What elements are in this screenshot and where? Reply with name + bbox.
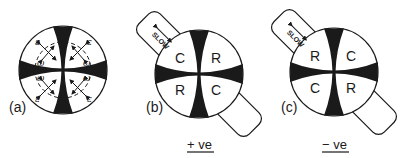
quadrant-bottom-right: C [211, 82, 221, 98]
panel-label-a: (a) [9, 99, 26, 115]
quadrant-bottom-left: C [310, 80, 320, 96]
quadrant-bottom-left: R [175, 82, 185, 98]
conoscopic-figure: ε ε ε ε ω ω ω ω (a) SLOW C R R C (b) + v… [0, 0, 410, 158]
quadrant-top-right: R [211, 50, 221, 66]
panel-c: SLOW R C C R (c) − ve [268, 6, 400, 152]
omega-label: ω [37, 58, 45, 68]
quadrant-top-right: C [346, 48, 356, 64]
omega-label: ω [83, 73, 91, 83]
panel-b: SLOW C R R C (b) + ve [133, 8, 265, 152]
omega-label: ω [83, 58, 91, 68]
epsilon-label: ε [87, 37, 92, 47]
omega-label: ω [37, 73, 45, 83]
epsilon-label: ε [35, 94, 40, 104]
panel-a: ε ε ε ε ω ω ω ω (a) [9, 26, 107, 115]
quadrant-top-left: R [310, 48, 320, 64]
panel-label-b: (b) [146, 99, 163, 115]
sign-caption-positive: + ve [187, 137, 212, 152]
quadrant-bottom-right: R [346, 80, 356, 96]
epsilon-label: ε [35, 37, 40, 47]
quadrant-top-left: C [175, 50, 185, 66]
sign-caption-negative: − ve [322, 137, 347, 152]
panel-label-c: (c) [281, 99, 297, 115]
epsilon-label: ε [87, 94, 92, 104]
